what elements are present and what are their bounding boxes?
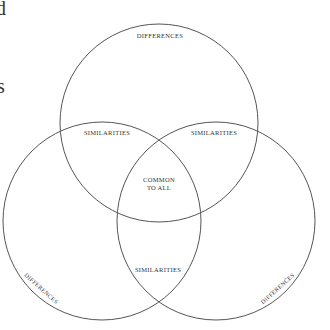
label-common-line2: TO ALL bbox=[147, 184, 171, 191]
label-similarities-top-left: SIMILARITIES bbox=[84, 129, 130, 136]
venn-diagram: DIFFERENCES SIMILARITIES SIMILARITIES CO… bbox=[0, 0, 330, 330]
label-common-line1: COMMON bbox=[143, 176, 175, 183]
label-similarities-bottom: SIMILARITIES bbox=[135, 266, 181, 273]
label-top-differences: DIFFERENCES bbox=[137, 32, 183, 39]
label-left-differences: DIFFERENCES bbox=[23, 272, 59, 305]
label-right-differences: DIFFERENCES bbox=[260, 272, 296, 305]
label-similarities-top-right: SIMILARITIES bbox=[191, 129, 237, 136]
